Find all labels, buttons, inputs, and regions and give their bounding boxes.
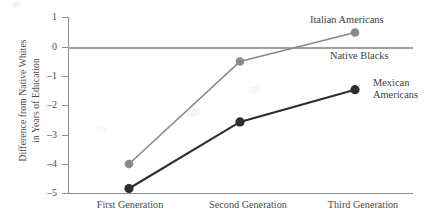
series-plot xyxy=(0,0,425,221)
series-label-native-blacks: Native Blacks xyxy=(330,50,389,62)
series-label-mexican-line1: Mexican xyxy=(373,77,409,88)
point-italian-third xyxy=(351,28,360,37)
point-italian-second xyxy=(236,57,245,66)
point-mexican-second xyxy=(235,117,244,126)
series-label-mexican-line2: Americans xyxy=(373,89,418,100)
point-mexican-third xyxy=(350,85,359,94)
point-mexican-first xyxy=(124,184,133,193)
x-tick-label-third-generation: Third Generation xyxy=(320,199,406,211)
point-italian-first xyxy=(125,160,134,169)
series-label-italian-americans: Italian Americans xyxy=(310,14,384,26)
x-tick-label-first-generation: First Generation xyxy=(88,199,172,211)
line-mexican-americans xyxy=(129,90,355,189)
chart-figure: Difference from Native Whites in Years o… xyxy=(0,0,425,221)
series-label-mexican-americans: Mexican Americans xyxy=(373,77,425,101)
x-tick-label-second-generation: Second Generation xyxy=(198,199,298,211)
